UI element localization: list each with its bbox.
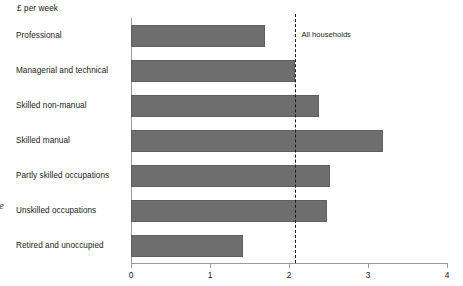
- page-margin-artifact-glyph: e: [0, 199, 4, 211]
- x-axis-tick-label: 1: [198, 270, 222, 280]
- category-label: Unskilled occupations: [16, 205, 128, 217]
- category-label: Retired and unoccupied: [16, 240, 128, 252]
- bar-chart: £ per week e ProfessionalManagerial and …: [0, 0, 463, 286]
- bar: [131, 165, 330, 187]
- all-households-reference-line: [295, 14, 296, 263]
- category-label: Professional: [16, 30, 128, 42]
- x-axis-tick-label: 3: [356, 270, 380, 280]
- value-axis-title: £ per week: [17, 4, 58, 13]
- category-label: Partly skilled occupations: [16, 170, 128, 182]
- category-label: Skilled non-manual: [16, 100, 128, 112]
- x-axis-tick: [447, 263, 448, 268]
- plot-area: 01234All households: [131, 18, 447, 263]
- bar: [131, 95, 319, 117]
- bar: [131, 25, 265, 47]
- bar: [131, 235, 243, 257]
- category-label: Managerial and technical: [16, 65, 128, 77]
- bar: [131, 130, 383, 152]
- bar: [131, 200, 327, 222]
- x-axis-tick-label: 0: [119, 270, 143, 280]
- x-axis-tick-label: 4: [435, 270, 459, 280]
- x-axis-tick: [368, 263, 369, 268]
- category-label: Skilled manual: [16, 135, 128, 147]
- x-axis-tick: [131, 263, 132, 268]
- x-axis-tick: [210, 263, 211, 268]
- x-axis-tick-label: 2: [277, 270, 301, 280]
- bar: [131, 60, 295, 82]
- x-axis-tick: [289, 263, 290, 268]
- reference-line-label: All households: [302, 30, 351, 39]
